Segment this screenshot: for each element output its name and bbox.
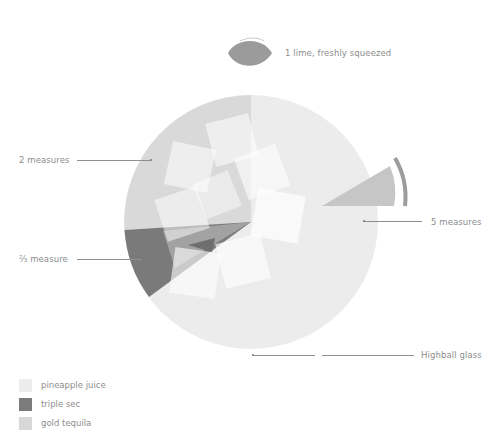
legend: pineapple juice triple sec gold tequila: [19, 376, 106, 431]
legend-label: pineapple juice: [41, 380, 106, 390]
gold-tequila-leader-dot: [150, 159, 152, 161]
pineapple-arc-accent: [395, 158, 406, 206]
legend-item-triple-sec: triple sec: [19, 395, 106, 413]
pineapple-juice-annotation: 5 measures: [431, 217, 482, 227]
legend-swatch-pineapple-juice: [19, 379, 32, 392]
cocktail-pie-diagram: [0, 0, 502, 431]
legend-swatch-gold-tequila: [19, 417, 32, 430]
pineapple-juice-leader-dot: [363, 220, 365, 222]
pineapple-juice-leader: [364, 221, 422, 222]
glass-annotation: Highball glass: [421, 350, 482, 360]
lime-icon: [228, 38, 272, 66]
glass-leader-b: [322, 355, 414, 356]
legend-item-gold-tequila: gold tequila: [19, 414, 106, 431]
glass-leader-a: [253, 355, 315, 356]
glass-leader-dot: [252, 354, 254, 356]
legend-label: gold tequila: [41, 418, 91, 428]
triple-sec-leader-dot: [142, 258, 144, 260]
lime-label: 1 lime, freshly squeezed: [285, 48, 391, 58]
triple-sec-leader: [77, 259, 143, 260]
gold-tequila-leader: [77, 160, 151, 161]
legend-label: triple sec: [41, 399, 80, 409]
gold-tequila-annotation: 2 measures: [19, 155, 70, 165]
triple-sec-annotation: ⅔ measure: [19, 254, 68, 264]
legend-swatch-triple-sec: [19, 398, 32, 411]
legend-item-pineapple-juice: pineapple juice: [19, 376, 106, 394]
